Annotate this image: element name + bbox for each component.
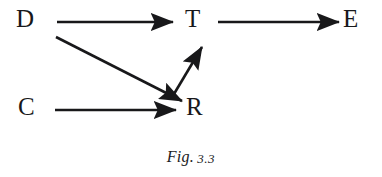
graph-node-t: T [185, 6, 200, 31]
figure-caption: Fig.3.3 [0, 148, 382, 166]
graph-node-c: C [18, 94, 35, 119]
graph-node-d: D [16, 6, 34, 31]
edge-R-to-T [171, 47, 202, 99]
figure-caption-word: Fig. [167, 148, 194, 165]
graph-node-r: R [186, 94, 203, 119]
figure-container: D T E C R Fig.3.3 [0, 0, 382, 177]
figure-caption-number: 3.3 [194, 151, 215, 166]
edge-D-to-R [56, 37, 182, 101]
graph-node-e: E [343, 6, 358, 31]
